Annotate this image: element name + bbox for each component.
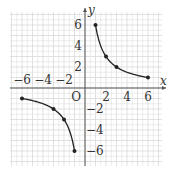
y-tick-label: −4: [86, 123, 104, 137]
data-point: [52, 107, 56, 111]
hyperbola-chart: −6−4−2246642−2−4−6Oxy: [0, 0, 169, 172]
y-tick-label: 2: [74, 60, 82, 74]
data-point: [73, 149, 77, 153]
origin-label: O: [71, 90, 81, 104]
y-axis-arrow-icon: [83, 8, 87, 12]
data-point: [94, 23, 98, 27]
data-point: [104, 55, 108, 59]
x-tick-label: 4: [123, 90, 131, 104]
x-tick-label: 6: [144, 90, 152, 104]
data-point: [62, 118, 66, 122]
y-tick-label: 4: [74, 39, 82, 53]
x-tick-label: −4: [34, 73, 52, 87]
x-axis-label: x: [160, 74, 167, 88]
x-tick-label: −2: [55, 73, 73, 87]
data-point: [115, 65, 119, 69]
y-tick-label: −6: [86, 144, 104, 158]
data-point: [146, 76, 150, 80]
y-tick-label: −2: [86, 102, 104, 116]
grid-lines: [10, 12, 162, 166]
y-tick-label: 6: [74, 18, 82, 32]
data-point: [20, 97, 24, 101]
y-axis-label: y: [87, 3, 95, 17]
x-tick-label: −6: [13, 73, 31, 87]
